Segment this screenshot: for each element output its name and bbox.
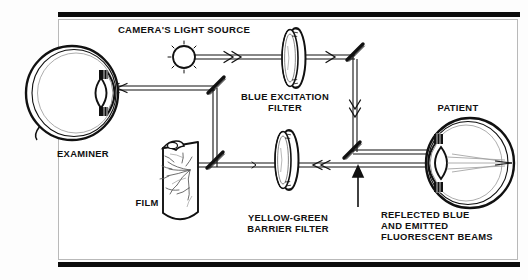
film-sheet (160, 141, 198, 219)
label-blue-excitation-filter: BLUE EXCITATION FILTER (241, 91, 329, 113)
figure-canvas: CAMERA'S LIGHT SOURCE BLUE EXCITATION FI… (0, 0, 528, 280)
beams-pointer-arrow (353, 166, 363, 207)
camera-light-source (168, 41, 196, 73)
blue-excitation-filter (282, 28, 306, 88)
label-patient: PATIENT (438, 102, 479, 113)
label-reflected-and-emitted-beams: REFLECTED BLUE AND EMITTED FLUORESCENT B… (381, 209, 493, 242)
label-examiner: EXAMINER (57, 148, 109, 159)
examiner-eye (26, 46, 118, 140)
label-camera-light-source: CAMERA'S LIGHT SOURCE (118, 24, 250, 35)
label-film: FILM (135, 197, 158, 208)
mirror-upper-right (347, 44, 365, 62)
patient-eye (426, 118, 514, 208)
yellow-green-barrier-filter (275, 130, 299, 190)
label-yellow-green-barrier-filter: YELLOW-GREEN BARRIER FILTER (247, 212, 329, 234)
